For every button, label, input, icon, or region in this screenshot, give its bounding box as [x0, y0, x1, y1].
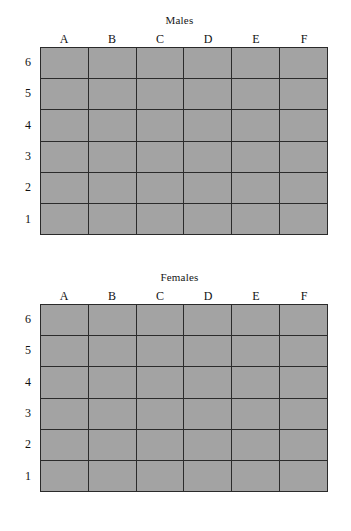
- grid-cell[interactable]: [89, 48, 137, 78]
- grid-cell[interactable]: [280, 336, 327, 366]
- grid-cell[interactable]: [41, 399, 89, 429]
- grid-cell[interactable]: [41, 204, 89, 234]
- grid-cell[interactable]: [184, 461, 232, 491]
- grid-cell[interactable]: [41, 110, 89, 140]
- grid-cell[interactable]: [137, 336, 185, 366]
- grid-cell[interactable]: [280, 430, 327, 460]
- row-headers-females: 6 5 4 3 2 1: [0, 304, 40, 492]
- grid-cell[interactable]: [89, 461, 137, 491]
- grid-cell[interactable]: [41, 305, 89, 335]
- grid-cell[interactable]: [280, 461, 327, 491]
- grid-cell[interactable]: [41, 79, 89, 109]
- panel-title-males: Males: [0, 14, 351, 27]
- row-header-4: 4: [0, 110, 40, 141]
- grid-row: [41, 79, 327, 110]
- grid-cell[interactable]: [280, 79, 327, 109]
- grid-cell[interactable]: [232, 336, 280, 366]
- grid-cell[interactable]: [280, 399, 327, 429]
- grid-cell[interactable]: [89, 367, 137, 397]
- grid-cell[interactable]: [184, 305, 232, 335]
- grid-wrapper-females: 6 5 4 3 2 1: [0, 304, 351, 492]
- grid-cell[interactable]: [137, 173, 185, 203]
- grid-cell[interactable]: [232, 399, 280, 429]
- grid-cell[interactable]: [89, 142, 137, 172]
- row-header-1: 1: [0, 461, 40, 492]
- grid-cell[interactable]: [41, 367, 89, 397]
- grid-cell[interactable]: [137, 79, 185, 109]
- grid-cell[interactable]: [184, 336, 232, 366]
- grid-cell[interactable]: [232, 461, 280, 491]
- grid-cell[interactable]: [41, 461, 89, 491]
- column-header-c: C: [136, 288, 184, 304]
- grid-cell[interactable]: [232, 79, 280, 109]
- grid-cell[interactable]: [184, 173, 232, 203]
- grid-cell[interactable]: [89, 79, 137, 109]
- column-headers-females: A B C D E F: [40, 288, 328, 304]
- grid-cell[interactable]: [89, 336, 137, 366]
- grid-wrapper-males: 6 5 4 3 2 1: [0, 47, 351, 235]
- grid-cell[interactable]: [137, 430, 185, 460]
- row-header-4: 4: [0, 367, 40, 398]
- grid-cell[interactable]: [137, 110, 185, 140]
- column-header-c: C: [136, 31, 184, 47]
- grid-cell[interactable]: [184, 48, 232, 78]
- grid-cell[interactable]: [184, 79, 232, 109]
- grid-cell[interactable]: [137, 399, 185, 429]
- grid-row: [41, 110, 327, 141]
- grid-cell[interactable]: [184, 399, 232, 429]
- grid-cell[interactable]: [184, 204, 232, 234]
- grid-cell[interactable]: [137, 305, 185, 335]
- grid-cell[interactable]: [89, 110, 137, 140]
- grid-cell[interactable]: [232, 204, 280, 234]
- column-header-a: A: [40, 288, 88, 304]
- panel-males: Males A B C D E F 6 5 4 3 2 1: [0, 14, 351, 235]
- grid-cell[interactable]: [232, 305, 280, 335]
- grid-cell[interactable]: [89, 204, 137, 234]
- grid-cell[interactable]: [280, 367, 327, 397]
- grid-cell[interactable]: [232, 173, 280, 203]
- row-header-6: 6: [0, 47, 40, 78]
- grid-cell[interactable]: [184, 430, 232, 460]
- grid-cell[interactable]: [232, 48, 280, 78]
- grid-cell[interactable]: [184, 142, 232, 172]
- grid-cell[interactable]: [232, 110, 280, 140]
- grid-row: [41, 173, 327, 204]
- grid-cell[interactable]: [280, 48, 327, 78]
- grid-cell[interactable]: [184, 110, 232, 140]
- panel-females: Females A B C D E F 6 5 4 3 2 1: [0, 271, 351, 492]
- grid-row: [41, 367, 327, 398]
- grid-cell[interactable]: [137, 367, 185, 397]
- grid-cell[interactable]: [89, 305, 137, 335]
- grid-cell[interactable]: [89, 430, 137, 460]
- grid-cell[interactable]: [184, 367, 232, 397]
- grid-cell[interactable]: [137, 204, 185, 234]
- row-header-3: 3: [0, 141, 40, 172]
- grid-cell[interactable]: [41, 430, 89, 460]
- grid-cell[interactable]: [41, 173, 89, 203]
- grid-cell[interactable]: [137, 142, 185, 172]
- grid-cell[interactable]: [41, 336, 89, 366]
- grid-cell[interactable]: [280, 305, 327, 335]
- grid-cell[interactable]: [41, 142, 89, 172]
- row-header-5: 5: [0, 78, 40, 109]
- grid-cell[interactable]: [280, 204, 327, 234]
- grid-cell[interactable]: [89, 399, 137, 429]
- grid-row: [41, 430, 327, 461]
- row-header-2: 2: [0, 172, 40, 203]
- grid-cell[interactable]: [137, 48, 185, 78]
- grid-cell[interactable]: [280, 142, 327, 172]
- grid-cell[interactable]: [280, 110, 327, 140]
- grid-cell[interactable]: [280, 173, 327, 203]
- grid-cell[interactable]: [232, 367, 280, 397]
- column-header-b: B: [88, 288, 136, 304]
- grid-row: [41, 142, 327, 173]
- panel-title-females: Females: [0, 271, 351, 284]
- grid-cell[interactable]: [232, 142, 280, 172]
- grid-cell[interactable]: [232, 430, 280, 460]
- grid-cell[interactable]: [137, 461, 185, 491]
- row-header-3: 3: [0, 398, 40, 429]
- grid-males: [40, 47, 328, 235]
- column-headers-males: A B C D E F: [40, 31, 328, 47]
- grid-cell[interactable]: [89, 173, 137, 203]
- grid-cell[interactable]: [41, 48, 89, 78]
